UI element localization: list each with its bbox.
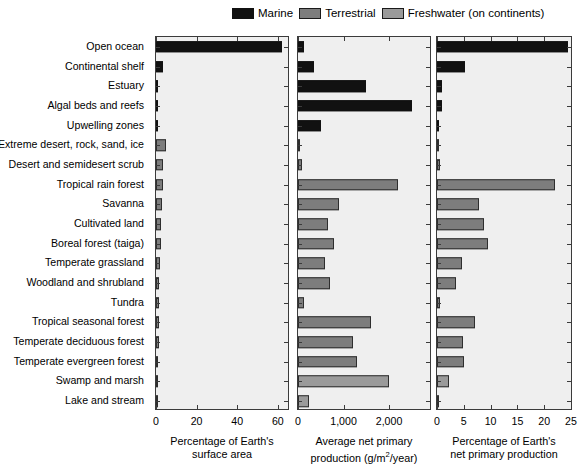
row-tick	[567, 322, 572, 323]
axis-title-line: production (g/m2/year)	[311, 448, 418, 465]
row-tick	[426, 263, 431, 264]
category-label: Upwelling zones	[67, 119, 144, 130]
row-tick	[297, 401, 302, 402]
x-tick	[491, 405, 492, 410]
row-tick	[284, 322, 289, 323]
axis-title-line: net primary production	[450, 448, 557, 461]
row-tick	[426, 381, 431, 382]
axis-title: Percentage of Earth'ssurface area	[170, 435, 274, 461]
row-tick	[567, 185, 572, 186]
category-label: Continental shelf	[65, 60, 144, 71]
category-label: Cultivated land	[74, 218, 144, 229]
bar	[298, 258, 325, 270]
x-tick-label: 15	[511, 416, 523, 427]
row-tick	[567, 67, 572, 68]
row-tick	[436, 126, 441, 127]
row-tick	[155, 342, 160, 343]
x-tick-label: 10	[485, 416, 497, 427]
row-tick	[426, 126, 431, 127]
row-tick	[436, 86, 441, 87]
row-tick	[297, 303, 302, 304]
row-tick	[426, 204, 431, 205]
x-tick	[197, 36, 198, 41]
row-tick	[155, 224, 160, 225]
category-label: Estuary	[108, 80, 144, 91]
category-label: Woodland and shrubland	[26, 277, 144, 288]
row-tick	[426, 342, 431, 343]
row-tick	[284, 381, 289, 382]
category-axis-labels: Open oceanContinental shelfEstuaryAlgal …	[0, 36, 150, 410]
row-tick	[297, 67, 302, 68]
row-tick	[426, 224, 431, 225]
row-tick	[155, 283, 160, 284]
row-tick	[297, 342, 302, 343]
row-tick	[436, 185, 441, 186]
x-tick	[344, 405, 345, 410]
row-tick	[297, 47, 302, 48]
row-tick	[297, 283, 302, 284]
row-tick	[155, 362, 160, 363]
legend-label-terrestrial: Terrestrial	[325, 7, 375, 19]
row-tick	[297, 362, 302, 363]
bar	[298, 356, 357, 368]
x-tick-label: 0	[295, 416, 301, 427]
row-tick	[567, 86, 572, 87]
row-tick	[426, 303, 431, 304]
x-tick	[437, 405, 438, 410]
row-tick	[426, 86, 431, 87]
x-tick-label: 60	[272, 416, 284, 427]
row-tick	[284, 362, 289, 363]
row-tick	[297, 263, 302, 264]
row-tick	[155, 381, 160, 382]
row-tick	[284, 401, 289, 402]
row-tick	[155, 185, 160, 186]
row-tick	[297, 106, 302, 107]
axis-title-line: Percentage of Earth's	[170, 435, 274, 448]
row-tick	[155, 401, 160, 402]
row-tick	[567, 126, 572, 127]
x-tick	[156, 405, 157, 410]
row-tick	[284, 67, 289, 68]
x-tick	[389, 405, 390, 410]
row-tick	[426, 185, 431, 186]
row-tick	[567, 244, 572, 245]
row-tick	[436, 362, 441, 363]
bar	[298, 238, 334, 250]
row-tick	[567, 401, 572, 402]
row-tick	[284, 86, 289, 87]
legend-label-marine: Marine	[258, 7, 293, 19]
row-tick	[155, 126, 160, 127]
row-tick	[567, 47, 572, 48]
row-tick	[567, 283, 572, 284]
row-tick	[436, 165, 441, 166]
row-tick	[284, 263, 289, 264]
row-tick	[297, 381, 302, 382]
axis-title-line: Percentage of Earth's	[450, 435, 557, 448]
category-label: Temperate evergreen forest	[14, 355, 144, 366]
row-tick	[284, 185, 289, 186]
row-tick	[284, 303, 289, 304]
row-tick	[297, 244, 302, 245]
plot-area-percentage-npp	[437, 37, 571, 409]
x-tick	[571, 405, 572, 410]
x-tick	[517, 405, 518, 410]
x-tick-label: 20	[538, 416, 550, 427]
x-tick-label: 25	[565, 416, 577, 427]
row-tick	[297, 204, 302, 205]
category-label: Tropical rain forest	[57, 178, 144, 189]
row-tick	[284, 126, 289, 127]
bar	[437, 61, 465, 73]
row-tick	[567, 381, 572, 382]
row-tick	[155, 165, 160, 166]
row-tick	[436, 401, 441, 402]
row-tick	[426, 283, 431, 284]
bar	[298, 199, 339, 211]
row-tick	[436, 224, 441, 225]
row-tick	[426, 67, 431, 68]
x-tick-label: 0	[434, 416, 440, 427]
row-tick	[426, 322, 431, 323]
x-tick	[491, 36, 492, 41]
row-tick	[436, 263, 441, 264]
row-tick	[436, 322, 441, 323]
bar	[298, 179, 398, 191]
